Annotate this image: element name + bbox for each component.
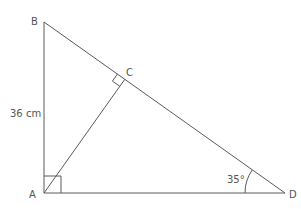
side-length-ab: 36 cm [10,108,41,119]
angle-label-d: 35° [227,174,245,185]
right-angle-marker-c [112,74,119,87]
triangle-diagram: B C A D 36 cm 35° [0,0,301,209]
point-label-c: C [126,67,133,78]
point-label-b: B [31,16,38,27]
segment-bd [44,22,285,193]
angle-arc-d [245,170,252,193]
point-label-d: D [289,189,297,200]
point-label-a: A [29,189,36,200]
right-angle-marker-a [44,176,61,193]
